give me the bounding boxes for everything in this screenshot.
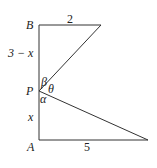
lower-diagonal [39, 91, 148, 140]
point-b-label: B [26, 18, 34, 32]
point-a-label: A [26, 140, 35, 154]
top-length-label: 2 [67, 12, 73, 26]
bottom-length-label: 5 [84, 140, 90, 154]
upper-length-label: 3 − x [7, 46, 34, 60]
beta-angle-label: β [40, 75, 47, 89]
alpha-angle-label: α [40, 92, 47, 106]
lower-length-label: x [27, 110, 34, 124]
point-p-label: P [25, 84, 34, 98]
theta-angle-label: θ [48, 82, 54, 96]
geometry-diagram: B 2 3 − x P β θ α x A 5 [0, 0, 157, 168]
